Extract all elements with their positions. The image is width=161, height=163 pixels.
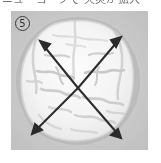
- scan-panel[interactable]: 5: [11, 11, 148, 150]
- cropped-caption-strip: ニューヨークで 火災が拡大: [0, 0, 161, 9]
- panel-index-badge: 5: [15, 16, 30, 31]
- figure-root: ニューヨークで 火災が拡大: [0, 0, 161, 163]
- caption-text: ニューヨークで 火災が拡大: [2, 0, 161, 9]
- scan-image: [11, 11, 148, 150]
